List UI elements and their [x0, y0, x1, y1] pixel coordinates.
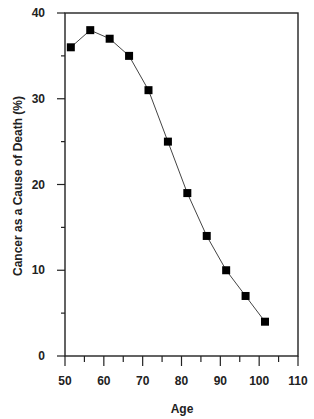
x-axis-title: Age [171, 402, 194, 416]
y-tick-label: 20 [32, 178, 46, 192]
chart: 5060708090100110 010203040 Age Cancer as… [0, 0, 314, 419]
data-point-marker [67, 43, 75, 51]
data-series [67, 26, 269, 326]
data-point-marker [222, 266, 230, 274]
x-tick-label: 50 [58, 374, 72, 388]
series-line [71, 30, 265, 322]
y-tick-label: 40 [32, 6, 46, 20]
data-point-marker [164, 138, 172, 146]
y-tick-label: 30 [32, 92, 46, 106]
y-tick-label: 0 [38, 349, 45, 363]
data-point-marker [144, 86, 152, 94]
plot-frame [65, 13, 298, 356]
x-tick-label: 110 [288, 374, 308, 388]
data-point-marker [203, 232, 211, 240]
data-point-marker [261, 318, 269, 326]
x-tick-label: 80 [175, 374, 189, 388]
data-point-marker [106, 35, 114, 43]
data-point-marker [242, 292, 250, 300]
data-point-marker [125, 52, 133, 60]
y-tick-label: 10 [32, 263, 46, 277]
x-tick-label: 60 [97, 374, 111, 388]
x-tick-label: 70 [136, 374, 150, 388]
plot-border [65, 13, 298, 356]
data-point-marker [183, 189, 191, 197]
data-point-marker [86, 26, 94, 34]
x-axis: 5060708090100110 [58, 356, 308, 388]
y-axis-title: Cancer as a Cause of Death (%) [11, 96, 25, 276]
y-axis: 010203040 [32, 6, 65, 363]
x-tick-label: 100 [249, 374, 269, 388]
x-tick-label: 90 [214, 374, 228, 388]
